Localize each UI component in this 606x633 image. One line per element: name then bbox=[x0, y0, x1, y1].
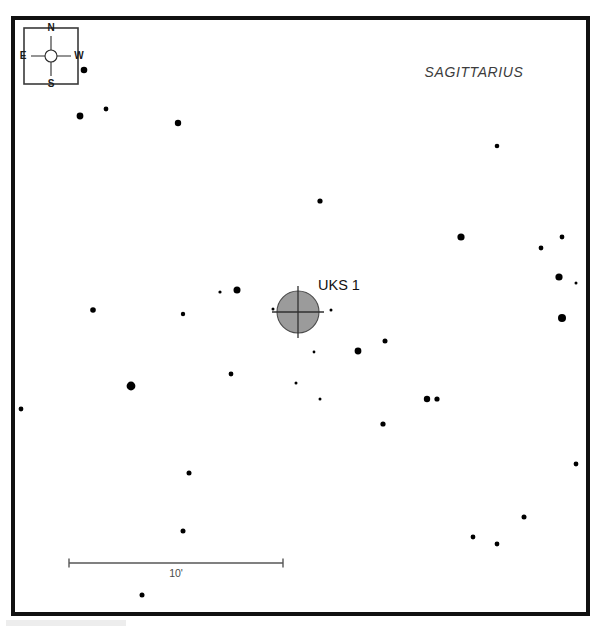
star-marker bbox=[81, 67, 88, 74]
star-marker bbox=[539, 246, 544, 251]
star-marker bbox=[175, 120, 181, 126]
star-marker bbox=[77, 113, 84, 120]
star-marker bbox=[574, 462, 579, 467]
star-marker bbox=[218, 290, 221, 293]
star-marker bbox=[127, 382, 136, 391]
star-marker bbox=[457, 233, 464, 240]
star-marker bbox=[383, 339, 388, 344]
compass-label-west: W bbox=[74, 50, 84, 61]
bottom-edge-artifact bbox=[6, 620, 126, 626]
star-marker bbox=[471, 535, 476, 540]
star-marker bbox=[19, 407, 24, 412]
compass-label-south: S bbox=[48, 78, 55, 89]
star-marker bbox=[181, 312, 185, 316]
star-marker bbox=[434, 396, 439, 401]
star-chart: UKS 1 SAGITTARIUS N S E W 10' bbox=[0, 0, 606, 633]
star-marker bbox=[181, 529, 186, 534]
compass-center-circle bbox=[45, 50, 57, 62]
star-marker bbox=[355, 348, 362, 355]
star-chart-canvas: UKS 1 SAGITTARIUS N S E W 10' bbox=[0, 0, 606, 633]
constellation-label: SAGITTARIUS bbox=[425, 64, 524, 80]
star-marker bbox=[495, 542, 500, 547]
star-marker bbox=[295, 382, 298, 385]
star-marker bbox=[140, 593, 145, 598]
star-marker bbox=[229, 372, 234, 377]
scale-bar-label: 10' bbox=[169, 567, 183, 579]
star-marker bbox=[104, 107, 109, 112]
object-label-uks1: UKS 1 bbox=[318, 277, 360, 293]
star-marker bbox=[560, 235, 565, 240]
compass-rose: N S E W bbox=[20, 22, 85, 89]
star-marker bbox=[90, 307, 96, 313]
star-marker bbox=[234, 287, 241, 294]
star-marker bbox=[380, 421, 385, 426]
star-marker bbox=[313, 351, 316, 354]
star-marker bbox=[495, 144, 500, 149]
star-marker bbox=[319, 398, 322, 401]
compass-label-north: N bbox=[47, 22, 54, 33]
compass-label-east: E bbox=[20, 50, 27, 61]
star-marker bbox=[272, 308, 275, 311]
star-marker bbox=[330, 309, 333, 312]
star-marker bbox=[558, 314, 566, 322]
star-marker bbox=[555, 273, 562, 280]
star-marker bbox=[522, 515, 527, 520]
star-marker bbox=[187, 471, 192, 476]
star-marker bbox=[317, 198, 322, 203]
star-marker bbox=[575, 282, 578, 285]
star-marker bbox=[424, 396, 430, 402]
